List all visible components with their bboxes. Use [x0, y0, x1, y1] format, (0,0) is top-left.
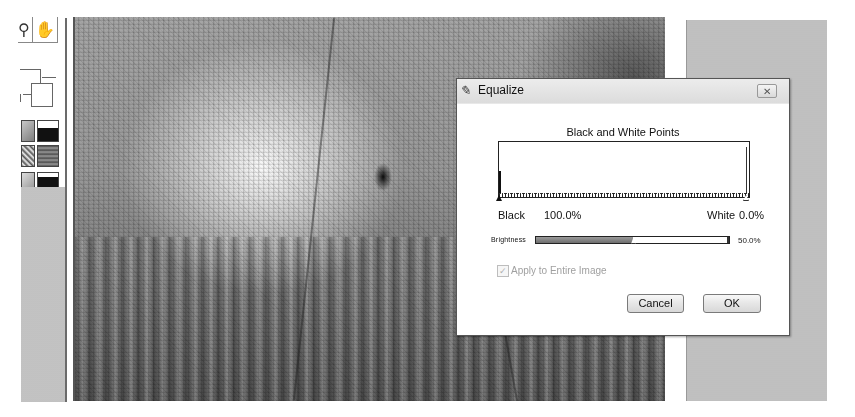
ok-button[interactable]: OK	[703, 294, 761, 313]
panel-divider[interactable]	[65, 18, 67, 402]
cancel-button[interactable]: Cancel	[627, 294, 684, 313]
thumbnail-4[interactable]	[37, 145, 59, 167]
tool-palette: ⚲ ✋	[18, 17, 58, 182]
paint-app-window: ⚲ ✋ ✎ Equa	[0, 0, 855, 417]
swatch-line	[20, 94, 21, 102]
white-point-spike	[746, 147, 747, 197]
swatch-line	[42, 77, 56, 78]
black-value: 100.0%	[544, 209, 581, 221]
black-label: Black	[498, 209, 525, 221]
black-point-handle[interactable]	[496, 195, 502, 201]
brush-icon: ✎	[460, 83, 477, 98]
white-value: 0.0%	[739, 209, 764, 221]
dialog-title-bar[interactable]: ✎ Equalize ✕	[457, 79, 789, 104]
white-label: White	[707, 209, 735, 221]
brightness-value: 50.0%	[738, 236, 761, 245]
brightness-slider-fill	[536, 237, 633, 243]
histogram-bars	[499, 193, 749, 197]
histogram-title: Black and White Points	[457, 126, 789, 138]
toolbar-empty-area	[21, 187, 65, 402]
magnifier-icon[interactable]: ⚲	[18, 17, 30, 42]
equalize-dialog: ✎ Equalize ✕ Black and White Points Blac…	[456, 78, 790, 336]
tool-row: ⚲ ✋	[18, 17, 58, 43]
thumbnail-3[interactable]	[21, 145, 35, 167]
hand-icon[interactable]: ✋	[32, 17, 57, 42]
close-icon: ✕	[763, 86, 771, 97]
brightness-label: Brightness	[491, 236, 526, 243]
dialog-title: Equalize	[478, 83, 524, 98]
histogram	[498, 141, 750, 198]
apply-entire-image-label: Apply to Entire Image	[511, 264, 607, 277]
close-button[interactable]: ✕	[757, 84, 777, 98]
thumbnail-1[interactable]	[21, 120, 35, 142]
brightness-slider[interactable]	[535, 236, 730, 244]
color-swatch[interactable]	[18, 49, 58, 109]
swatch-line	[40, 69, 41, 83]
brightness-slider-end	[727, 237, 729, 243]
apply-entire-image-checkbox[interactable]: ✓	[497, 265, 509, 277]
swatch-line	[20, 69, 40, 70]
background-color-swatch[interactable]	[31, 83, 53, 107]
thumbnail-2[interactable]	[37, 120, 59, 142]
foreground-color-swatch[interactable]	[23, 94, 31, 95]
canvas-edge	[73, 17, 75, 401]
